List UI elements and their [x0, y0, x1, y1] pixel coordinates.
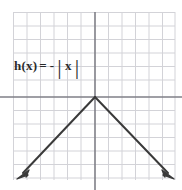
curve-left-branch: [23, 97, 95, 173]
curve-layer: [0, 0, 182, 190]
arrowhead-right: [162, 170, 174, 179]
function-label: h(x)=-|x|: [14, 59, 81, 74]
label-variable: x: [65, 58, 72, 73]
label-abs-bar-left: |: [57, 60, 62, 74]
graph-figure: h(x)=-|x|: [0, 0, 182, 190]
label-abs-bar-right: |: [75, 60, 80, 74]
arrowhead-left: [17, 170, 29, 179]
label-function-name: h(x): [14, 58, 37, 73]
absolute-value-curve: [23, 97, 168, 173]
label-negative-sign: -: [50, 58, 55, 73]
curve-right-branch: [95, 97, 168, 173]
label-equals-sign: =: [39, 58, 47, 73]
